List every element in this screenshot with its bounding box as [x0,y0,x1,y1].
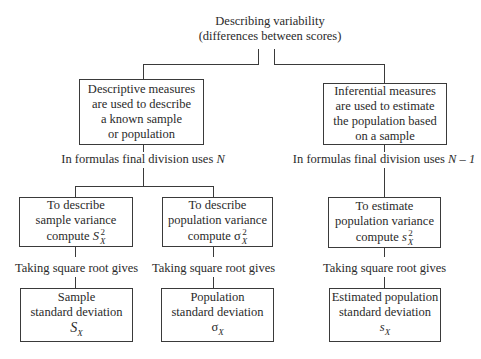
sqrt-label-estimated: Taking square root gives [323,261,445,276]
compute-label: compute [356,229,402,243]
estimated-variance-line-2: population variance [335,214,434,229]
population-variance-formula: compute σ2X [188,228,247,246]
connector-to-population-variance [213,186,214,197]
division-symbol-n: N [216,152,224,166]
inferential-line-1: Inferential measures [334,84,436,99]
estimated-variance-symbol: s [402,229,407,243]
sup-sub-stack: 2X [242,228,248,246]
connector-title-left [143,64,259,65]
descriptive-division-label: In formulas final division uses N [43,152,243,167]
sqrt-label-sample: Taking square root gives [15,261,137,276]
connector-inferential-down [384,145,385,152]
connector-to-estimated-sd [384,277,385,288]
sample-sd-symbol: SX [70,320,83,341]
connector-estimated-variance-down [384,248,385,257]
inferential-line-4: on a sample [355,129,415,144]
subscript: X [100,237,106,246]
inferential-division-label: In formulas final division uses N – 1 [282,152,481,167]
inferential-line-2: are used to estimate [336,99,435,114]
descriptive-line-3: a known sample [101,112,182,127]
subscript: X [77,327,83,337]
sample-variance-formula: compute S2X [47,228,106,246]
connector-to-inferential [384,64,385,84]
population-sd-box: Population standard deviation σX [161,288,274,342]
division-label-text: In formulas final division uses [293,152,448,166]
population-sd-line-1: Population [190,290,244,305]
connector-to-sample-sd [75,277,76,288]
connector-title-right-stem [274,49,275,65]
population-variance-line-2: population variance [168,213,267,228]
population-variance-symbol: σ [234,229,241,243]
connector-sample-variance-down [75,247,76,257]
subscript: X [242,237,248,246]
estimated-sd-line-1: Estimated population [332,290,439,305]
sample-sd-box: Sample standard deviation SX [20,288,133,342]
subscript: X [385,327,391,337]
subscript: X [218,327,224,337]
compute-label: compute [188,229,234,243]
subscript: X [408,238,414,247]
sup-sub-stack: 2X [408,229,414,247]
title-line-1: Describing variability [190,14,350,29]
sample-variance-line-1: To describe [47,198,105,213]
population-sd-line-2: standard deviation [172,305,264,320]
population-variance-box: To describe population variance compute … [162,197,273,247]
sample-sd-line-2: standard deviation [31,305,123,320]
descriptive-line-2: are used to describe [92,97,191,112]
estimated-sd-line-2: standard deviation [339,305,431,320]
estimated-variance-box: To estimate population variance compute … [328,197,441,248]
sample-variance-line-2: sample variance [36,213,117,228]
sample-sd-line-1: Sample [58,290,96,305]
sqrt-label-population: Taking square root gives [152,261,274,276]
population-sd-symbol: σX [211,320,223,340]
estimated-sd-box: Estimated population standard deviation … [329,288,441,342]
inferential-measures-box: Inferential measures are used to estimat… [323,83,447,145]
estimated-variance-formula: compute s2X [356,229,414,247]
connector-descriptive-down [143,145,144,152]
population-variance-line-1: To describe [189,198,247,213]
compute-label: compute [47,229,93,243]
diagram-title: Describing variability (differences betw… [190,14,350,44]
connector-division-down-left [143,168,144,186]
inferential-line-3: the population based [333,114,436,129]
division-symbol-n-minus-1: N – 1 [448,152,475,166]
sample-variance-symbol: S [93,229,99,243]
sample-variance-box: To describe sample variance compute S2X [19,197,133,247]
estimated-sd-symbol: sX [380,320,390,340]
connector-title-left-stem [258,49,259,65]
estimated-variance-line-1: To estimate [356,199,414,214]
descriptive-line-1: Descriptive measures [88,82,195,97]
connector-to-descriptive [143,64,144,80]
connector-branch-horizontal [75,186,214,187]
division-label-text: In formulas final division uses [61,152,216,166]
descriptive-line-4: or population [108,127,175,142]
connector-division-down-right [384,168,385,197]
connector-population-variance-down [213,247,214,257]
descriptive-measures-box: Descriptive measures are used to describ… [79,79,204,145]
connector-title-right [274,64,385,65]
title-line-2: (differences between scores) [190,29,350,44]
sup-sub-stack: 2X [100,228,106,246]
connector-to-population-sd [213,277,214,288]
connector-to-sample-variance [75,186,76,197]
